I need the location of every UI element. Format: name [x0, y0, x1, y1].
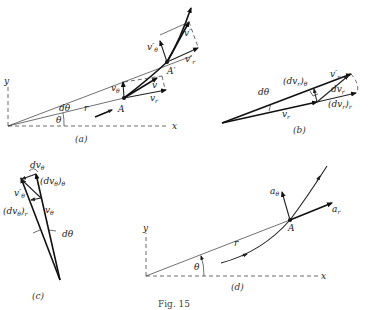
panel-d-label: (d)	[231, 282, 244, 292]
theta-arc-d	[201, 256, 204, 276]
right-angle-mark	[310, 91, 318, 96]
dv-r-r-label: (dvr)r	[328, 99, 353, 110]
panel-b: dθ vr v′r dvr (dvr)θ (dvr)r (b)	[222, 69, 358, 135]
r-label: r	[84, 103, 89, 113]
panel-c-label: (c)	[32, 291, 45, 301]
v-r-label: vr	[150, 93, 159, 104]
dv-theta-r-label: (dvθ)r	[3, 206, 29, 217]
v-theta-prime-label: v′θ	[147, 42, 158, 53]
v-r-label-b: vr	[282, 109, 291, 120]
dtheta-arc-c	[33, 230, 56, 233]
dv-theta-vector	[31, 198, 41, 200]
panel-a-label: (a)	[75, 134, 88, 144]
panel-c: dvθ (dvθ)θ v′θ (dvθ)r vθ dθ (c)	[3, 160, 74, 301]
x-axis-label-d: x	[321, 271, 326, 281]
panel-b-label: (b)	[293, 125, 306, 135]
v-r-prime-label: v′r	[185, 54, 196, 65]
v-theta-prime-label-c: v′θ	[14, 188, 25, 199]
a-theta-vector	[282, 192, 290, 220]
v-parallelogram-side	[162, 76, 165, 89]
figure-15: x y θ dθ r A vθ v vr A′ v′θ v′	[0, 0, 374, 310]
theta-label-d: θ	[194, 262, 200, 272]
r-label-d: r	[234, 238, 239, 248]
v-theta-prime-vector	[160, 41, 167, 62]
panel-d: x y r θ A ar aθ (d)	[142, 166, 341, 292]
dv-r-label: dvr	[331, 84, 346, 95]
trajectory-d	[221, 166, 327, 263]
v-prime-label: v′	[184, 28, 191, 38]
figure-caption: Fig. 15	[158, 299, 190, 309]
v-theta-vector	[123, 82, 124, 98]
v-theta-label: vθ	[111, 83, 120, 94]
dtheta-label-c: dθ	[62, 229, 74, 239]
dv-theta-theta-label: (dvθ)θ	[40, 176, 66, 187]
a-r-label: ar	[332, 204, 341, 215]
path-arrow-in	[95, 110, 112, 117]
dtheta-label: dθ	[59, 103, 71, 113]
dv-r-theta-label: (dvr)θ	[283, 76, 308, 87]
y-axis-label-d: y	[142, 223, 149, 233]
v-r-prime-label-b: v′r	[330, 69, 341, 80]
panel-a: x y θ dθ r A vθ v vr A′ v′θ v′	[3, 8, 198, 144]
v-label: v	[152, 80, 157, 90]
dtheta-label-b: dθ	[258, 87, 270, 97]
point-A-label-d: A	[287, 223, 295, 233]
theta-arc	[63, 113, 64, 126]
theta-label: θ	[56, 115, 62, 125]
point-A-prime-label: A′	[166, 66, 176, 76]
point-A-label: A	[117, 104, 125, 114]
trajectory	[124, 8, 191, 98]
v-theta-label-c: vθ	[45, 205, 54, 216]
dv-theta-label: dvθ	[30, 160, 45, 171]
radius-line-d	[146, 220, 290, 276]
a-theta-label: aθ	[270, 186, 279, 197]
x-axis-label: x	[172, 121, 177, 131]
dv-theta-r-vector	[22, 174, 36, 179]
y-axis-label: y	[3, 76, 10, 86]
arc-dashed	[351, 74, 358, 93]
